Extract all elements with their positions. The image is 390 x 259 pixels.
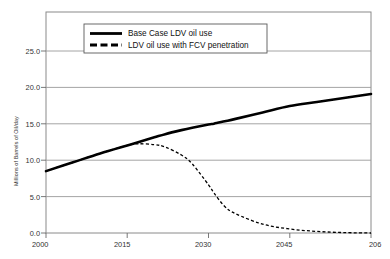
x-axis-ticks — [46, 233, 371, 238]
plot-area — [0, 0, 390, 259]
legend-label-base-case: Base Case LDV oil use — [128, 29, 212, 38]
legend-label-fcv: LDV oil use with FCV penetration — [128, 41, 249, 50]
y-axis-ticks — [41, 51, 46, 233]
chart-container: Millions of Barrels of Oil/day 0.0 5.0 1… — [0, 0, 390, 259]
